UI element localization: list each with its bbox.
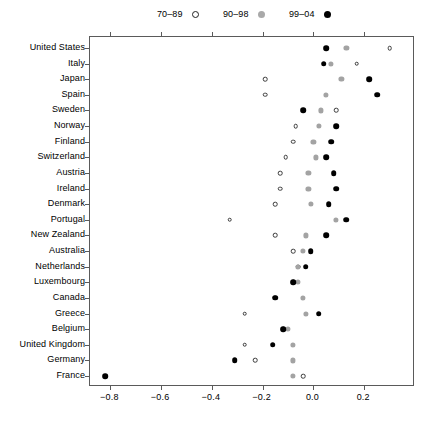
x-tick-label: 0.0 (306, 392, 319, 402)
data-point (273, 295, 279, 301)
data-point (291, 249, 296, 254)
category-label: Germany (47, 355, 85, 364)
data-point (273, 202, 278, 207)
y-tick (85, 298, 90, 299)
legend-item-99-04: 99–04 (289, 4, 331, 24)
y-tick (85, 204, 90, 205)
data-point (308, 248, 314, 254)
data-point (270, 342, 276, 348)
data-point (333, 123, 339, 129)
y-tick (85, 110, 90, 111)
x-tick (212, 385, 213, 390)
data-point (301, 295, 306, 300)
y-tick (85, 189, 90, 190)
y-tick (85, 267, 90, 268)
category-label: Luxembourg (34, 277, 85, 286)
data-point (243, 342, 248, 347)
legend-item-70-89: 70–89 (157, 4, 199, 24)
data-point (331, 170, 337, 176)
data-point (318, 108, 323, 113)
x-tick (263, 385, 264, 390)
x-tick-label: −0.2 (252, 392, 271, 402)
data-point (285, 327, 290, 332)
x-tick-label: −0.6 (151, 392, 170, 402)
data-point (291, 358, 296, 363)
y-tick (85, 173, 90, 174)
data-point (293, 124, 298, 129)
data-point (323, 233, 329, 239)
category-label: Australia (49, 246, 85, 255)
data-point (333, 186, 339, 192)
data-point (227, 218, 232, 223)
data-point (323, 155, 329, 161)
x-tick-top (313, 32, 314, 37)
y-tick (85, 220, 90, 221)
data-point (334, 108, 339, 113)
data-point (306, 186, 311, 191)
category-label: Greece (55, 308, 85, 317)
category-label: France (56, 371, 85, 380)
data-point (367, 76, 373, 82)
data-point (278, 171, 283, 176)
data-point (300, 108, 306, 114)
data-point (387, 46, 392, 51)
x-tick-top (161, 32, 162, 37)
data-point (291, 342, 296, 347)
category-label: Denmark (48, 199, 85, 208)
x-tick-top (110, 32, 111, 37)
data-point (102, 373, 108, 379)
data-point (308, 202, 313, 207)
data-point (313, 155, 318, 160)
data-point (263, 77, 268, 82)
category-label: Austria (56, 167, 85, 176)
y-tick (85, 235, 90, 236)
data-point (374, 92, 380, 98)
category-label: Norway (54, 121, 85, 130)
data-point (303, 233, 308, 238)
data-point (273, 233, 278, 238)
data-point (243, 311, 248, 316)
x-tick (364, 385, 365, 390)
x-tick (110, 385, 111, 390)
y-tick (85, 376, 90, 377)
x-tick-label: −0.8 (100, 392, 119, 402)
data-point (323, 45, 329, 51)
y-tick (85, 360, 90, 361)
y-tick (85, 79, 90, 80)
x-tick-top (263, 32, 264, 37)
data-point (290, 279, 296, 285)
data-point (329, 61, 334, 66)
data-point (301, 374, 306, 379)
category-label: Finland (55, 136, 85, 145)
x-tick (161, 385, 162, 390)
data-point (278, 186, 283, 191)
data-point (296, 280, 301, 285)
y-tick (85, 48, 90, 49)
y-tick (85, 142, 90, 143)
x-tick-label: 0.2 (357, 392, 370, 402)
y-tick (85, 126, 90, 127)
y-tick (85, 157, 90, 158)
x-tick (313, 385, 314, 390)
data-point (253, 358, 258, 363)
category-axis-labels: United StatesItalyJapanSpainSwedenNorway… (0, 0, 85, 422)
data-point (301, 248, 306, 253)
data-point (344, 217, 350, 223)
category-label: Japan (60, 74, 85, 83)
data-point (303, 311, 308, 316)
data-point (316, 311, 322, 317)
legend-label-90-98: 90–98 (223, 10, 249, 19)
data-point (291, 373, 296, 378)
y-tick (85, 64, 90, 65)
y-tick (85, 282, 90, 283)
category-label: Switzerland (37, 152, 85, 161)
plot-area (89, 36, 414, 386)
category-label: United Kingdom (20, 339, 85, 348)
y-tick (85, 329, 90, 330)
data-point (311, 139, 316, 144)
data-point (339, 77, 344, 82)
data-point (354, 61, 359, 66)
data-point (291, 139, 296, 144)
legend-gray-circle-icon (258, 11, 265, 18)
data-point (324, 92, 329, 97)
